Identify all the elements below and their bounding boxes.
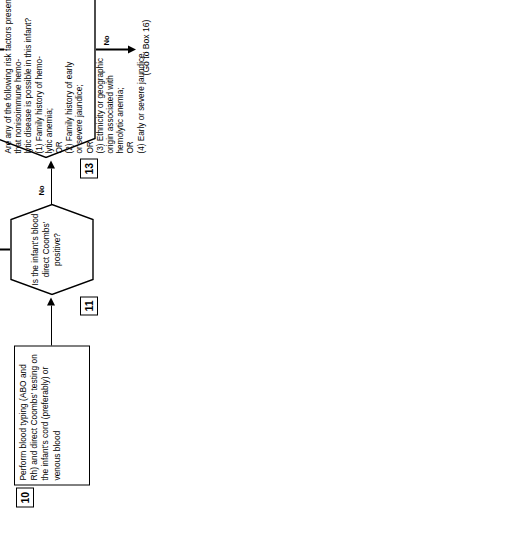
edge-13-exit-arrowhead	[128, 45, 136, 53]
edge-11-12-line	[0, 248, 10, 249]
edge-13-14-line	[0, 48, 4, 49]
edge-11-13-label: No	[38, 185, 46, 195]
node-box-13-text: Are any of the following risk factors pr…	[4, 0, 147, 153]
node-box-11-text: Is the infant's blood direct Coombs' pos…	[30, 207, 64, 291]
terminal-goto-box-16-lower: (Go to Box 16)	[141, 6, 152, 88]
box-number-13: 13	[80, 158, 98, 178]
box-number-11: 11	[80, 296, 98, 315]
edge-11-13-line	[51, 168, 52, 204]
box-number-10: 10	[16, 487, 34, 507]
edge-11-13-arrowhead	[47, 160, 55, 168]
edge-10-11-arrowhead	[47, 297, 55, 305]
flowchart-canvas: 10 Perform blood typing (ABO and Rh) and…	[0, 0, 508, 547]
edge-13-exit-line	[96, 48, 128, 49]
edge-10-11-line	[51, 305, 52, 345]
edge-13-exit-label: No	[103, 35, 111, 45]
node-box-10-text: Perform blood typing (ABO and Rh) and di…	[14, 345, 90, 485]
